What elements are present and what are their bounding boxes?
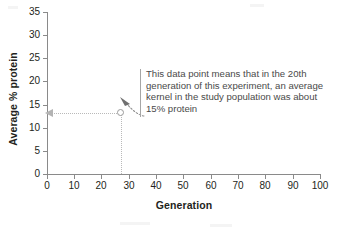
y-axis-title: Average % protein bbox=[7, 34, 19, 164]
y-axis-line bbox=[47, 12, 48, 175]
x-tick-label-100: 100 bbox=[305, 181, 335, 191]
x-tick-label-70: 70 bbox=[223, 181, 253, 191]
y-tick-30 bbox=[43, 35, 47, 36]
scan-artifact bbox=[210, 224, 232, 227]
x-axis-line bbox=[47, 174, 321, 175]
x-axis-title: Generation bbox=[47, 199, 321, 211]
chart-canvas: 0 5 10 15 20 25 30 35 0 10 20 30 40 50 6… bbox=[0, 0, 347, 231]
x-tick-10 bbox=[74, 175, 75, 179]
vertical-guide-line bbox=[121, 114, 122, 174]
x-tick-50 bbox=[183, 175, 184, 179]
x-tick-label-40: 40 bbox=[141, 181, 171, 191]
x-tick-70 bbox=[238, 175, 239, 179]
leader-line-icon bbox=[118, 95, 146, 119]
scan-artifact bbox=[120, 222, 150, 225]
x-tick-30 bbox=[129, 175, 130, 179]
x-tick-60 bbox=[211, 175, 212, 179]
x-tick-label-60: 60 bbox=[196, 181, 226, 191]
x-tick-20 bbox=[101, 175, 102, 179]
annotation-text: This data point means that in the 20th g… bbox=[146, 68, 336, 114]
x-tick-label-0: 0 bbox=[32, 181, 62, 191]
x-tick-label-50: 50 bbox=[168, 181, 198, 191]
x-tick-0 bbox=[47, 175, 48, 179]
y-tick-label-0: 0 bbox=[14, 169, 40, 179]
x-tick-label-20: 20 bbox=[86, 181, 116, 191]
x-tick-40 bbox=[156, 175, 157, 179]
y-tick-25 bbox=[43, 58, 47, 59]
y-tick-35 bbox=[43, 12, 47, 13]
x-tick-100 bbox=[320, 175, 321, 179]
x-tick-80 bbox=[265, 175, 266, 179]
x-tick-label-80: 80 bbox=[250, 181, 280, 191]
x-tick-label-30: 30 bbox=[114, 181, 144, 191]
annotation-accent-rule bbox=[140, 69, 141, 117]
guide-arrowhead-icon bbox=[45, 109, 53, 117]
x-tick-90 bbox=[293, 175, 294, 179]
horizontal-guide-line bbox=[52, 113, 121, 114]
y-tick-10 bbox=[43, 128, 47, 129]
y-tick-label-35: 35 bbox=[14, 7, 40, 17]
y-tick-20 bbox=[43, 81, 47, 82]
x-tick-label-10: 10 bbox=[59, 181, 89, 191]
y-tick-15 bbox=[43, 105, 47, 106]
x-tick-label-90: 90 bbox=[278, 181, 308, 191]
y-tick-5 bbox=[43, 151, 47, 152]
scan-artifact bbox=[250, 4, 264, 7]
